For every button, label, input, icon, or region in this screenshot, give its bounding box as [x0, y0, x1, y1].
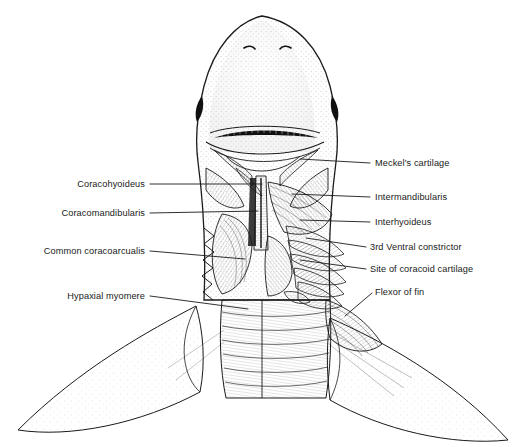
- shark-ventral-illustration: [0, 0, 521, 447]
- label-hypaxial-myomere: Hypaxial myomere: [67, 292, 145, 301]
- hypaxial-myomere: [220, 300, 330, 398]
- label-interhyoideus: Interhyoideus: [375, 218, 431, 227]
- leader-flexor-of-fin: [345, 293, 372, 316]
- label-site-of-coracoid-cartilage: Site of coracoid cartilage: [370, 265, 473, 274]
- label-common-coracoarcualis: Common coracoarcualis: [44, 247, 145, 256]
- left-pectoral-fin: [18, 306, 203, 432]
- label-flexor-of-fin: Flexor of fin: [375, 288, 424, 297]
- label-coracohyoideus: Coracohyoideus: [77, 180, 145, 189]
- anatomical-figure: Coracohyoideus Coracomandibularis Common…: [0, 0, 521, 447]
- label-meckels-cartilage: Meckel's cartilage: [375, 159, 450, 168]
- label-third-ventral-constrictor: 3rd Ventral constrictor: [370, 243, 462, 252]
- coracomandibularis: [254, 176, 268, 250]
- label-intermandibularis: Intermandibularis: [375, 193, 447, 202]
- label-coracomandibularis: Coracomandibularis: [61, 209, 145, 218]
